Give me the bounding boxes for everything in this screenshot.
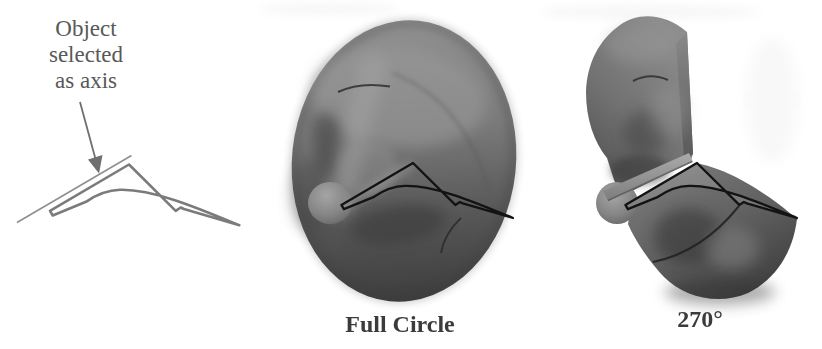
annotation-arrow-icon [80, 102, 103, 174]
caption-full-circle: Full Circle [320, 311, 480, 338]
full-circle-model [278, 9, 530, 313]
caption-270-degrees: 270° [640, 306, 760, 333]
profile-2d-panel [17, 102, 239, 225]
profile-outline-2d [50, 165, 239, 226]
figure-revolve-illustration: Object selected as axis Full Circle 270° [0, 0, 822, 349]
axis-annotation-label: Object selected as axis [11, 16, 161, 94]
